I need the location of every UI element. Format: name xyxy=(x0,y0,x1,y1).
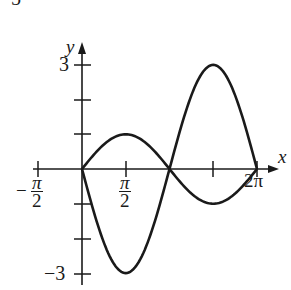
problem-number: 5 xyxy=(11,0,21,10)
x-axis-label: x xyxy=(278,146,286,168)
fraction-denominator: 2 xyxy=(120,192,130,209)
y-tick-label-3: 3 xyxy=(59,53,69,76)
x-tick-label-2pi: 2π xyxy=(244,170,263,192)
y-axis-arrow-icon xyxy=(78,42,86,54)
x-tick-label-neg-pi-over-2: π 2 xyxy=(31,174,43,209)
fraction-denominator: 2 xyxy=(32,192,42,209)
x-tick-label-pi-over-2: π 2 xyxy=(119,174,131,209)
y-tick-label-neg-3: −3 xyxy=(44,262,65,285)
plot-area xyxy=(0,0,291,290)
x-tick-label-neg-sign: − xyxy=(16,180,27,202)
